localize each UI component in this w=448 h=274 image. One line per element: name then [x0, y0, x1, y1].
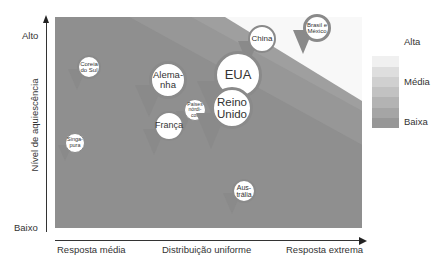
pin-label: Alema-nha	[149, 61, 187, 99]
y-axis-title: Nível de aquiescência	[29, 79, 40, 172]
x-tick-left: Resposta média	[57, 244, 126, 255]
y-axis-line	[46, 22, 47, 232]
pin-label: ReinoUnido	[211, 87, 253, 129]
pin-label: Coreiado Sul	[77, 55, 101, 79]
legend-label-high: Alta	[404, 36, 420, 47]
pin-label: França	[154, 111, 184, 141]
pin-label: China	[248, 25, 276, 53]
y-axis-arrow-icon	[43, 15, 49, 23]
pin-label: Singa-pura	[65, 133, 85, 153]
x-axis-line	[55, 240, 360, 241]
pin-label: Aus-trália	[232, 179, 256, 203]
y-tick-high: Alto	[22, 30, 38, 41]
legend-label-mid: Média	[404, 76, 430, 87]
y-tick-low: Baixo	[14, 222, 38, 233]
x-tick-right: Resposta extrema	[286, 244, 363, 255]
pin-label: Brasil eMéxico	[303, 14, 331, 42]
legend-colorbar	[372, 36, 399, 128]
legend-label-low: Baixa	[404, 116, 428, 127]
x-tick-center: Distribuição uniforme	[162, 244, 251, 255]
